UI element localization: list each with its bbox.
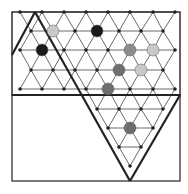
board-node[interactable] bbox=[117, 107, 121, 111]
grid-line bbox=[75, 12, 86, 31]
board-node[interactable] bbox=[106, 126, 110, 130]
board-node[interactable] bbox=[62, 10, 66, 14]
board-node[interactable] bbox=[173, 48, 177, 52]
board-node[interactable] bbox=[151, 87, 155, 91]
grid-line bbox=[119, 89, 130, 109]
grid-line bbox=[130, 12, 141, 31]
grid-line bbox=[119, 12, 130, 31]
board-node[interactable] bbox=[139, 145, 143, 149]
grid-line bbox=[163, 70, 175, 89]
grid-line bbox=[86, 70, 97, 89]
grid-line bbox=[31, 70, 42, 89]
grid-line bbox=[20, 70, 31, 89]
light-gray-piece[interactable] bbox=[135, 64, 147, 76]
board-node[interactable] bbox=[95, 68, 99, 72]
board-node[interactable] bbox=[84, 87, 88, 91]
grid-line bbox=[153, 70, 163, 89]
board-node[interactable] bbox=[18, 87, 22, 91]
grid-line bbox=[141, 109, 153, 128]
board-node[interactable] bbox=[117, 145, 121, 149]
board-node[interactable] bbox=[40, 10, 44, 14]
grid-line bbox=[153, 89, 163, 109]
board-node[interactable] bbox=[117, 29, 121, 33]
board-node[interactable] bbox=[139, 29, 143, 33]
grid-line bbox=[130, 89, 141, 109]
board-node[interactable] bbox=[73, 68, 77, 72]
black-piece[interactable] bbox=[91, 25, 103, 37]
grid-line bbox=[108, 109, 119, 128]
board-node[interactable] bbox=[151, 10, 155, 14]
grid-line bbox=[75, 31, 86, 50]
grid-line bbox=[42, 70, 53, 89]
grid-line bbox=[108, 12, 119, 31]
board-node[interactable] bbox=[173, 10, 177, 14]
board-node[interactable] bbox=[95, 107, 99, 111]
grid-line bbox=[20, 31, 31, 50]
board-node[interactable] bbox=[128, 87, 132, 91]
grid-line bbox=[86, 50, 97, 70]
light-gray-piece[interactable] bbox=[47, 25, 59, 37]
grid-line bbox=[64, 12, 75, 31]
board-node[interactable] bbox=[106, 48, 110, 52]
grid-line bbox=[97, 50, 108, 70]
board-node[interactable] bbox=[173, 87, 177, 91]
board-node[interactable] bbox=[84, 10, 88, 14]
board-node[interactable] bbox=[128, 164, 132, 168]
grid-line bbox=[53, 70, 64, 89]
board-node[interactable] bbox=[18, 10, 22, 14]
black-piece[interactable] bbox=[36, 44, 48, 56]
grid-line bbox=[153, 12, 163, 31]
board-node[interactable] bbox=[73, 29, 77, 33]
gray-piece[interactable] bbox=[124, 44, 136, 56]
dark-gray-piece[interactable] bbox=[102, 83, 114, 95]
board-node[interactable] bbox=[84, 48, 88, 52]
board-node[interactable] bbox=[51, 68, 55, 72]
board-node[interactable] bbox=[29, 68, 33, 72]
game-board[interactable] bbox=[0, 0, 188, 194]
board-node[interactable] bbox=[18, 48, 22, 52]
board-node[interactable] bbox=[161, 107, 165, 111]
grid-line bbox=[75, 50, 86, 70]
grid-line bbox=[163, 50, 175, 70]
grid-line bbox=[108, 31, 119, 50]
board-node[interactable] bbox=[62, 48, 66, 52]
board-node[interactable] bbox=[161, 68, 165, 72]
board-node[interactable] bbox=[62, 87, 66, 91]
board-node[interactable] bbox=[106, 10, 110, 14]
grid-line bbox=[163, 12, 175, 31]
board-node[interactable] bbox=[139, 107, 143, 111]
board-node[interactable] bbox=[151, 126, 155, 130]
board-node[interactable] bbox=[40, 87, 44, 91]
grid-line bbox=[20, 50, 31, 70]
board-node[interactable] bbox=[128, 10, 132, 14]
grid-line bbox=[141, 89, 153, 109]
dark-gray-piece[interactable] bbox=[113, 64, 125, 76]
light-gray-piece[interactable] bbox=[147, 44, 159, 56]
board-boundary-line bbox=[130, 95, 180, 181]
dark-gray-piece[interactable] bbox=[124, 122, 136, 134]
grid-line bbox=[141, 12, 153, 31]
board-node[interactable] bbox=[161, 29, 165, 33]
grid-line bbox=[64, 31, 75, 50]
grid-line bbox=[163, 31, 175, 50]
board-node[interactable] bbox=[29, 29, 33, 33]
